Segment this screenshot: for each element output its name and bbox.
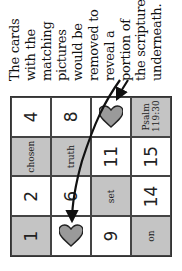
- scripture-reference: Psalm 119:30: [131, 97, 171, 137]
- card-2: 2: [11, 177, 51, 217]
- card-label: 15: [141, 146, 161, 168]
- card-8: 8: [51, 97, 91, 137]
- card-grid: 1 2 chosen 4 6 truth 8 9 set 11 on 14 15…: [10, 96, 172, 257]
- scripture-reference-text: Psalm 119:30: [141, 102, 161, 132]
- scripture-word: on: [146, 231, 156, 242]
- rotated-page: 1 2 chosen 4 6 truth 8 9 set 11 on 14 15…: [0, 0, 182, 271]
- card-label: 1: [21, 231, 41, 242]
- scripture-word-truth: truth: [51, 137, 91, 177]
- caption-line: the scripture: [133, 0, 149, 81]
- scripture-word: truth: [66, 145, 76, 168]
- heart-icon: [59, 223, 83, 249]
- card-15: 15: [131, 137, 171, 177]
- card-11: 11: [91, 137, 131, 177]
- caption-line: removed to: [86, 0, 102, 81]
- caption-text: The cards with the matching pictures wou…: [7, 0, 165, 81]
- card-heart-1: [51, 216, 91, 256]
- scripture-word-on: on: [131, 216, 171, 256]
- card-9: 9: [91, 216, 131, 256]
- scripture-word: chosen: [26, 141, 36, 173]
- card-label: 8: [61, 111, 81, 122]
- scripture-word: set: [106, 190, 116, 204]
- caption-line: pictures: [54, 0, 70, 81]
- card-4: 4: [11, 97, 51, 137]
- caption-line: The cards: [7, 0, 23, 81]
- card-14: 14: [131, 177, 171, 217]
- card-heart-2: [91, 97, 131, 137]
- caption-line: portion of: [118, 0, 134, 81]
- heart-icon: [99, 104, 123, 130]
- card-1: 1: [11, 216, 51, 256]
- caption-line: reveal a: [102, 0, 118, 81]
- scripture-word-set: set: [91, 177, 131, 217]
- scripture-word-chosen: chosen: [11, 137, 51, 177]
- card-label: 2: [21, 191, 41, 202]
- caption-line: would be: [70, 0, 86, 81]
- card-label: 11: [101, 146, 121, 168]
- caption-line: matching: [39, 0, 55, 81]
- card-6: 6: [51, 177, 91, 217]
- caption-line: with the: [23, 0, 39, 81]
- card-label: 4: [21, 111, 41, 122]
- card-label: 6: [61, 191, 81, 202]
- card-label: 9: [101, 231, 121, 242]
- caption-line: underneath.: [149, 0, 165, 81]
- card-label: 14: [141, 186, 161, 208]
